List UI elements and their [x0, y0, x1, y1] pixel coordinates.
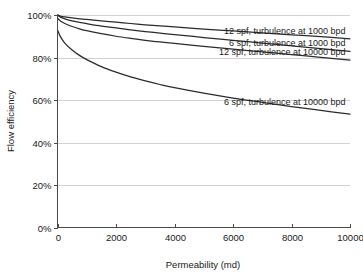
x-tick-label: 4000: [165, 232, 186, 243]
series-label-4: 6 spf, turbulence at 10000 bpd: [224, 97, 346, 107]
x-tick-label: 10000: [337, 232, 363, 243]
x-tick-label: 2000: [106, 232, 127, 243]
y-tick-label: 20%: [32, 180, 52, 191]
y-axis-title: Flow efficiency: [5, 90, 16, 152]
chart-figure: 0%20%40%60%80%100% 020004000600080001000…: [0, 0, 363, 274]
x-tick-label: 0: [56, 232, 61, 243]
y-tick-label: 0%: [38, 223, 52, 234]
y-tick-label: 40%: [32, 138, 52, 149]
x-tick-label: 8000: [282, 232, 303, 243]
x-tick-label: 6000: [223, 232, 244, 243]
y-tick-label: 100%: [27, 10, 52, 21]
x-axis-title: Permeability (md): [166, 259, 240, 270]
y-tick-label: 80%: [32, 53, 52, 64]
y-tick-label: 60%: [32, 95, 52, 106]
series-label-3: 12 spf, turbulence at 10000 bpd: [219, 47, 346, 57]
series-label-1: 12 spf, turbulence at 1000 bpd: [224, 26, 346, 36]
flow-efficiency-line-chart: 0%20%40%60%80%100% 020004000600080001000…: [0, 0, 363, 274]
